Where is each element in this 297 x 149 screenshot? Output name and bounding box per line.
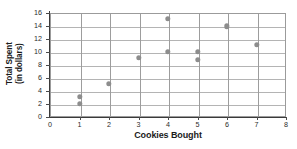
y-axis-label-line1: Total Spent <box>4 43 14 86</box>
x-tick-label: 7 <box>250 121 264 128</box>
x-axis-label: Cookies Bought <box>50 130 286 140</box>
x-tick-label: 4 <box>161 121 175 128</box>
x-tick-mark <box>80 117 81 120</box>
x-tick-mark <box>198 117 199 120</box>
y-tick-label: 10 <box>28 48 42 55</box>
y-tick-label: 8 <box>28 61 42 68</box>
x-tick-mark <box>257 117 258 120</box>
gridline-horizontal <box>51 105 285 106</box>
x-tick-label: 2 <box>102 121 116 128</box>
y-tick-mark <box>46 13 50 14</box>
y-axis-label-line2: (in dollars) <box>14 43 24 86</box>
gridline-horizontal <box>51 92 285 93</box>
x-tick-label: 6 <box>220 121 234 128</box>
y-tick-label: 16 <box>28 9 42 16</box>
y-tick-mark <box>46 39 50 40</box>
x-tick-label: 3 <box>132 121 146 128</box>
x-tick-label: 5 <box>191 121 205 128</box>
y-tick-label: 14 <box>28 22 42 29</box>
x-tick-mark <box>286 117 287 120</box>
y-tick-mark <box>46 117 50 118</box>
gridline-vertical <box>110 14 111 116</box>
x-tick-label: 1 <box>73 121 87 128</box>
gridline-horizontal <box>51 79 285 80</box>
y-tick-mark <box>46 26 50 27</box>
x-tick-mark <box>227 117 228 120</box>
gridline-horizontal <box>51 66 285 67</box>
y-axis-label: Total Spent (in dollars) <box>4 22 24 106</box>
y-tick-mark <box>46 91 50 92</box>
y-tick-mark <box>46 65 50 66</box>
y-tick-label: 12 <box>28 35 42 42</box>
plot-area <box>50 13 286 117</box>
y-tick-label: 2 <box>28 100 42 107</box>
x-tick-label: 0 <box>43 121 57 128</box>
gridline-vertical <box>140 14 141 116</box>
x-tick-label: 8 <box>279 121 293 128</box>
x-tick-mark <box>109 117 110 120</box>
x-tick-mark <box>168 117 169 120</box>
y-tick-mark <box>46 52 50 53</box>
scatter-chart-figure: Total Spent (in dollars) Cookies Bought … <box>0 0 297 149</box>
y-tick-mark <box>46 104 50 105</box>
gridline-horizontal <box>51 40 285 41</box>
y-tick-label: 4 <box>28 87 42 94</box>
gridline-vertical <box>199 14 200 116</box>
y-tick-label: 6 <box>28 74 42 81</box>
gridline-vertical <box>169 14 170 116</box>
x-tick-mark <box>139 117 140 120</box>
gridline-vertical <box>228 14 229 116</box>
gridline-vertical <box>258 14 259 116</box>
y-tick-label: 0 <box>28 113 42 120</box>
gridline-horizontal <box>51 27 285 28</box>
y-tick-mark <box>46 78 50 79</box>
